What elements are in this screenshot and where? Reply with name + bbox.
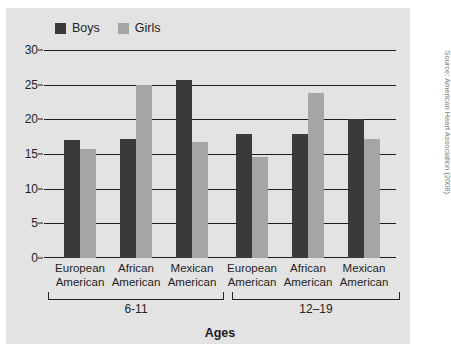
legend-label-boys: Boys bbox=[72, 22, 100, 35]
bar-boys-5 bbox=[348, 119, 364, 258]
bar-girls-5 bbox=[364, 139, 380, 258]
y-tickmark-15 bbox=[38, 154, 43, 155]
bar-boys-1 bbox=[120, 139, 136, 258]
legend-swatch-boys bbox=[55, 23, 66, 34]
y-axis-tick-marks bbox=[0, 50, 44, 258]
category-label-5-line1: Mexican bbox=[328, 262, 400, 276]
y-tickmark-25 bbox=[38, 84, 43, 85]
category-label-5: Mexican American bbox=[328, 262, 400, 289]
category-label-5-line2: American bbox=[328, 276, 400, 290]
legend-swatch-girls bbox=[118, 23, 129, 34]
source-note: Source: American Heart Association (2008… bbox=[442, 51, 451, 197]
y-tickmark-20 bbox=[38, 119, 43, 120]
bar-girls-4 bbox=[308, 93, 324, 258]
legend-entry-girls: Girls bbox=[118, 22, 161, 35]
y-tickmark-5 bbox=[38, 223, 43, 224]
x-axis-category-labels: European American African American Mexic… bbox=[44, 262, 396, 290]
bar-girls-3 bbox=[252, 157, 268, 258]
bar-girls-2 bbox=[192, 142, 208, 258]
bar-boys-0 bbox=[64, 140, 80, 258]
bar-boys-2 bbox=[176, 80, 192, 258]
bar-girls-1 bbox=[136, 85, 152, 258]
group-label-6-11: 6-11 bbox=[48, 302, 224, 316]
bar-girls-0 bbox=[80, 149, 96, 258]
legend-label-girls: Girls bbox=[135, 22, 161, 35]
bar-boys-4 bbox=[292, 134, 308, 258]
y-tickmark-10 bbox=[38, 188, 43, 189]
y-tickmark-30 bbox=[38, 50, 43, 51]
group-brackets: 6-11 12–19 bbox=[44, 292, 396, 304]
x-axis-title: Ages bbox=[44, 326, 396, 340]
group-bracket-12-19 bbox=[232, 292, 400, 300]
group-bracket-6-11 bbox=[48, 292, 224, 300]
bar-boys-3 bbox=[236, 134, 252, 258]
chart-legend: Boys Girls bbox=[55, 20, 161, 36]
legend-entry-boys: Boys bbox=[55, 22, 100, 35]
y-tickmark-0 bbox=[38, 258, 43, 259]
group-label-12-19: 12–19 bbox=[232, 302, 400, 316]
bar-series-container bbox=[44, 50, 396, 258]
